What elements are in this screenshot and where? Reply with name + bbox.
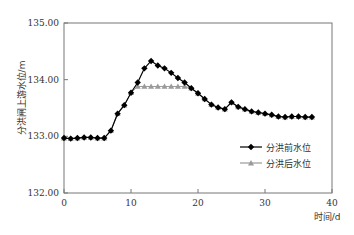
series-before xyxy=(61,58,315,142)
legend-label: 分洪后水位 xyxy=(266,158,311,169)
series-line xyxy=(64,86,312,138)
y-axis-label: 分洪闸上游水位/m xyxy=(16,61,27,136)
y-tick-label: 132.00 xyxy=(28,188,60,198)
y-tick-label: 135.00 xyxy=(28,18,60,28)
axes: 132.00133.00134.00135.00010203040时间/d分洪闸… xyxy=(16,18,340,222)
x-tick-label: 0 xyxy=(61,198,67,208)
diamond-marker xyxy=(135,79,141,85)
x-tick-label: 10 xyxy=(125,198,137,208)
x-tick-label: 30 xyxy=(259,198,271,208)
series-line xyxy=(64,61,312,139)
line-chart: 132.00133.00134.00135.00010203040时间/d分洪闸… xyxy=(0,0,354,235)
x-tick-label: 20 xyxy=(192,198,204,208)
x-tick-label: 40 xyxy=(326,198,338,208)
diamond-marker xyxy=(248,144,254,150)
x-axis-label: 时间/d xyxy=(314,211,341,222)
legend-label: 分洪前水位 xyxy=(266,142,311,153)
y-tick-label: 134.00 xyxy=(28,75,60,85)
series-after xyxy=(61,83,315,141)
series-group xyxy=(61,58,315,142)
y-tick-label: 133.00 xyxy=(28,131,60,141)
legend: 分洪前水位分洪后水位 xyxy=(240,142,311,169)
